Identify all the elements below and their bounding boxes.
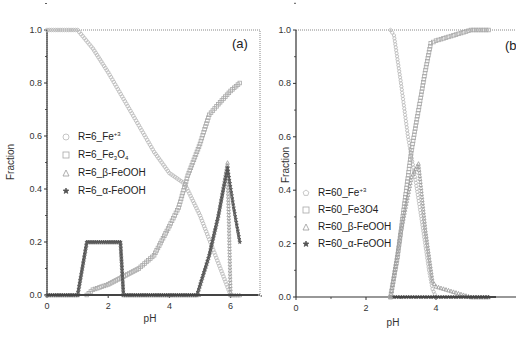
pentagon-marker bbox=[416, 190, 419, 193]
series-triangle bbox=[45, 161, 241, 297]
legend-item: R=60_Fe3O4 bbox=[303, 204, 379, 215]
legend-item: R=6_α-FeOOH bbox=[63, 185, 146, 196]
y-tick-label: 0.4 bbox=[278, 185, 291, 195]
x-tick-label: 0 bbox=[44, 301, 49, 311]
series-triangle bbox=[389, 162, 491, 299]
square-marker bbox=[165, 229, 169, 233]
square-marker bbox=[159, 241, 163, 245]
pentagon-marker bbox=[415, 187, 418, 190]
panel-b-x-ticks: 024 bbox=[293, 297, 471, 313]
legend-item: R=6_β-FeOOH bbox=[63, 167, 146, 178]
panel-a: 0.00.20.40.60.81.0 0246 pH Fraction (a) … bbox=[5, 4, 261, 325]
square-marker bbox=[173, 214, 177, 218]
square-marker bbox=[432, 40, 436, 44]
x-tick-label: 4 bbox=[433, 303, 438, 313]
series-circle bbox=[45, 28, 232, 297]
pentagon-marker bbox=[400, 85, 403, 88]
pentagon-marker bbox=[406, 132, 409, 135]
star-marker bbox=[303, 241, 309, 246]
panel-b-legend: R=60_Fe+3R=60_Fe3O4R=60_β-FeOOHR=60_α-Fe… bbox=[303, 187, 391, 249]
square-marker bbox=[157, 244, 161, 248]
y-tick-label: 0.0 bbox=[29, 290, 42, 300]
y-tick-label: 0.8 bbox=[278, 78, 291, 88]
y-tick-label: 0.6 bbox=[278, 132, 291, 142]
pentagon-marker bbox=[401, 91, 404, 94]
legend-label: R=60_Fe+3 bbox=[318, 187, 367, 198]
panel-a-series bbox=[45, 28, 258, 297]
pentagon-marker bbox=[402, 100, 405, 103]
pentagon-marker bbox=[398, 70, 402, 73]
pentagon-marker bbox=[403, 113, 406, 116]
y-tick-label: 0.0 bbox=[278, 292, 291, 302]
panel-b: 0.00.20.40.60.81.0 024 pH Fraction (b R=… bbox=[278, 3, 516, 328]
pentagon-marker bbox=[398, 76, 401, 79]
square-marker bbox=[190, 163, 194, 167]
legend-item: R=60_Fe+3 bbox=[303, 187, 367, 198]
star-marker bbox=[228, 181, 231, 184]
square-marker bbox=[161, 236, 165, 240]
panel-b-series bbox=[389, 28, 496, 299]
legend-label: R=6_Fe+3 bbox=[78, 131, 121, 142]
pentagon-marker bbox=[397, 67, 400, 70]
y-tick-label: 1.0 bbox=[278, 25, 291, 35]
pentagon-marker bbox=[402, 104, 405, 107]
figure: 0.00.20.40.60.81.0 0246 pH Fraction (a) … bbox=[0, 0, 516, 342]
square-marker bbox=[155, 249, 159, 253]
pentagon-marker bbox=[404, 119, 408, 122]
legend-item: R=6_Fe3O4 bbox=[63, 149, 129, 161]
legend-label: R=6_α-FeOOH bbox=[78, 185, 146, 196]
series-square bbox=[389, 28, 491, 299]
pentagon-marker bbox=[398, 73, 401, 76]
pentagon-marker bbox=[406, 129, 409, 132]
square-marker bbox=[156, 246, 160, 250]
circle-marker bbox=[63, 134, 69, 140]
panel-b-y-label: Fraction bbox=[280, 147, 291, 183]
panel-b-label: (b bbox=[505, 38, 516, 53]
legend-label: R=60_α-FeOOH bbox=[318, 238, 391, 249]
square-marker bbox=[160, 239, 164, 243]
pentagon-marker bbox=[303, 190, 309, 195]
pentagon-marker bbox=[396, 58, 399, 61]
pentagon-marker bbox=[394, 43, 397, 46]
star-marker bbox=[232, 206, 236, 209]
pentagon-marker bbox=[400, 88, 403, 91]
square-marker bbox=[170, 219, 174, 223]
panel-a-x-ticks: 0246 bbox=[44, 295, 261, 311]
square-marker bbox=[154, 251, 158, 255]
legend-label: R=6_β-FeOOH bbox=[78, 167, 146, 178]
x-tick-label: 4 bbox=[167, 301, 172, 311]
panel-b-x-label: pH bbox=[387, 317, 400, 328]
star-marker bbox=[231, 200, 234, 203]
pentagon-marker bbox=[401, 94, 405, 97]
pentagon-marker bbox=[393, 37, 396, 40]
pentagon-marker bbox=[405, 122, 409, 125]
pentagon-marker bbox=[395, 49, 398, 52]
square-marker bbox=[168, 224, 172, 228]
pentagon-marker bbox=[395, 55, 398, 58]
pentagon-marker bbox=[407, 141, 410, 144]
panel-a-label: (a) bbox=[232, 36, 248, 51]
square-marker bbox=[164, 232, 168, 236]
y-tick-label: 0.6 bbox=[29, 131, 42, 141]
square-marker bbox=[63, 152, 69, 158]
square-marker bbox=[187, 171, 191, 175]
star-marker bbox=[232, 203, 235, 206]
pentagon-marker bbox=[417, 196, 420, 199]
square-marker bbox=[189, 166, 193, 170]
square-marker bbox=[195, 150, 199, 154]
legend-label: R=60_Fe3O4 bbox=[318, 204, 379, 215]
y-tick-label: 0.2 bbox=[29, 237, 42, 247]
square-marker bbox=[188, 169, 192, 173]
y-tick-label: 0.4 bbox=[29, 184, 42, 194]
square-marker bbox=[303, 207, 309, 213]
square-marker bbox=[196, 147, 200, 151]
square-marker bbox=[163, 234, 167, 238]
legend-label: R=6_Fe3O4 bbox=[78, 149, 129, 161]
pentagon-marker bbox=[395, 52, 398, 55]
legend-label: R=60_β-FeOOH bbox=[318, 221, 391, 232]
x-tick-label: 2 bbox=[106, 301, 111, 311]
x-tick-label: 0 bbox=[293, 303, 298, 313]
panel-a-y-label: Fraction bbox=[5, 144, 16, 180]
square-marker bbox=[169, 222, 173, 226]
pentagon-marker bbox=[413, 175, 416, 178]
